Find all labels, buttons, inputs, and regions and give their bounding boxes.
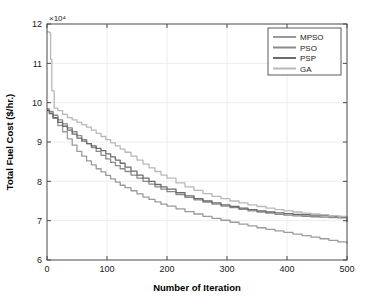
x-axis-title: Number of Iteration (153, 282, 241, 293)
legend-label-ga: GA (300, 65, 312, 74)
x-tick-label: 300 (219, 264, 234, 274)
x-tick-label: 500 (339, 264, 354, 274)
x-tick-label: 400 (279, 264, 294, 274)
legend-label-pso: PSO (300, 44, 317, 53)
x-tick-label: 200 (159, 264, 174, 274)
x-tick-labels: 0100200300400500 (44, 264, 354, 274)
y-axis-title: Total Fuel Cost ($/hr.) (4, 94, 15, 190)
x-tick-label: 0 (44, 264, 49, 274)
y-tick-label: 7 (37, 216, 42, 226)
y-axis-exponent-label: ×10⁴ (49, 14, 67, 23)
legend-label-psp: PSP (300, 54, 316, 63)
line-chart: 0100200300400500 6789101112 ×10⁴ Number … (0, 0, 366, 304)
legend-label-mpso: MPSO (300, 33, 324, 42)
y-tick-label: 11 (33, 59, 42, 69)
y-tick-label: 10 (32, 98, 42, 108)
y-tick-labels: 6789101112 (32, 19, 42, 265)
figure-container: 0100200300400500 6789101112 ×10⁴ Number … (0, 0, 366, 304)
y-tick-label: 12 (32, 19, 42, 29)
y-tick-label: 6 (37, 255, 42, 265)
y-tick-label: 8 (37, 177, 42, 187)
x-tick-label: 100 (99, 264, 114, 274)
chart-legend[interactable]: MPSOPSOPSPGA (268, 28, 341, 75)
y-tick-label: 9 (37, 137, 42, 147)
